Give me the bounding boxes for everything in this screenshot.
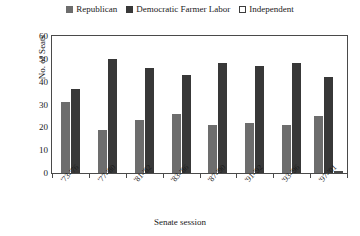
legend-swatch-democratic-farmer-labor [126,6,133,13]
x-tick-mark [347,174,348,178]
bar-dfl [255,66,264,173]
y-tick-label: 20 [22,122,48,132]
legend-entry-democratic-farmer-labor: Democratic Farmer Labor [126,4,230,14]
bar-rep [98,130,107,173]
bar-dfl [108,59,117,173]
legend-entry-republican: Republican [66,4,117,14]
bar-dfl [324,77,333,173]
legend-label-democratic-farmer-labor: Democratic Farmer Labor [136,4,230,14]
bar-dfl [292,63,301,173]
bar-group [236,36,273,173]
bar-group [200,36,237,173]
bar-group [126,36,163,173]
bar-dfl [218,63,227,173]
y-tick-label: 60 [22,31,48,41]
bar-rep [135,120,144,173]
legend-swatch-independent [239,6,246,13]
y-tick-label: 50 [22,54,48,64]
x-axis-title: Senate session [0,217,360,228]
bar-rep [314,116,323,173]
bar-group [89,36,126,173]
y-tick-label: 10 [22,145,48,155]
bar-rep [208,125,217,173]
y-tick-label: 40 [22,77,48,87]
chart-legend: Republican Democratic Farmer Labor Indep… [0,2,360,16]
bar-dfl [182,75,191,173]
y-tick-label: 30 [22,100,48,110]
y-axis-ticks: 0102030405060 [22,30,48,179]
bar-group [273,36,310,173]
bar-rep [172,114,181,173]
bars-layer [52,36,347,173]
bar-rep [61,102,70,173]
bar-group [310,36,347,173]
legend-label-independent: Independent [249,4,293,14]
y-tick-label: 0 [22,168,48,178]
bar-group [52,36,89,173]
bar-rep [245,123,254,173]
bar-dfl [145,68,154,173]
bar-rep [282,125,291,173]
bar-dfl [71,89,80,173]
legend-label-republican: Republican [76,4,117,14]
legend-swatch-republican [66,6,73,13]
bar-group [163,36,200,173]
legend-entry-independent: Independent [239,4,293,14]
x-axis-labels: '73-'76'77-'80'81-'82'83-'86'87-'90'91-'… [52,178,347,210]
